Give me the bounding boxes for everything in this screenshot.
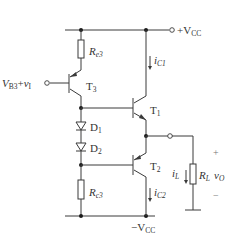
- vo-label: vO: [214, 169, 225, 183]
- neg-vcc-label: −VCC: [131, 221, 155, 235]
- vcc-label: +VCC: [177, 24, 201, 38]
- il-arrow-icon: [184, 180, 188, 184]
- t3-collector: [70, 89, 81, 96]
- t1-collector: [134, 96, 146, 103]
- ic1-arrow-icon: [148, 66, 152, 70]
- t1-emitter-arrow-icon: [139, 114, 146, 120]
- resistor-rc3: [78, 180, 84, 199]
- input-terminal: [45, 81, 50, 86]
- t3-label: T3: [86, 80, 97, 94]
- rl-label: RL: [198, 169, 210, 183]
- vo-minus-sign: −: [213, 190, 219, 201]
- resistor-rl: [190, 164, 196, 184]
- diode-d1-icon: [76, 122, 86, 130]
- output-terminal: [168, 134, 173, 139]
- circuit-diagram: +VCC Re3 T3 VB3+vI D1 D2 Rc3 −VCC T1 iC1: [0, 0, 234, 245]
- t2-label: T2: [150, 160, 161, 174]
- rc3-label: Rc3: [88, 186, 103, 200]
- t2-collector: [134, 170, 146, 177]
- il-label: iL: [172, 167, 179, 181]
- node-bottom-left: [79, 214, 83, 218]
- t2-emitter-arrow-icon: [134, 155, 141, 160]
- vcc-terminal: [170, 28, 175, 33]
- d1-label: D1: [90, 121, 102, 135]
- ic2-arrow-icon: [148, 198, 152, 202]
- ic1-label: iC1: [154, 54, 166, 68]
- input-label: VB3+vI: [2, 77, 32, 91]
- diode-d2-icon: [76, 143, 86, 151]
- resistor-re3: [78, 40, 84, 58]
- t3-emitter-arrow-icon: [70, 72, 77, 77]
- re3-label: Re3: [88, 45, 103, 59]
- t1-label: T1: [150, 104, 161, 118]
- ic2-label: iC2: [154, 186, 166, 200]
- vo-plus-sign: +: [213, 147, 219, 158]
- d2-label: D2: [90, 142, 102, 156]
